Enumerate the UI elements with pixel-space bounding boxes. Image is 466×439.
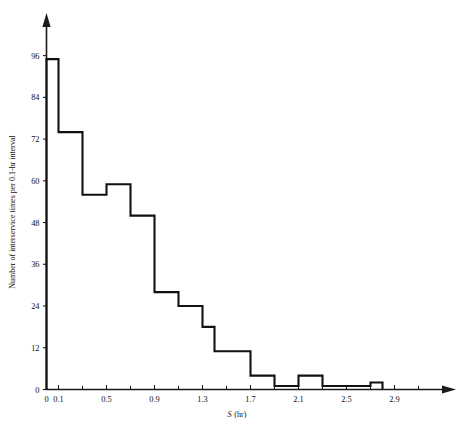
x-tick-label: 0.1 — [53, 395, 63, 404]
y-tick-label: 36 — [31, 260, 39, 269]
y-tick-label: 48 — [31, 219, 39, 228]
y-tick-label: 12 — [31, 344, 39, 353]
y-tick-label: 60 — [31, 177, 39, 186]
x-tick-label: 2.5 — [341, 395, 351, 404]
x-tick-labels: 00.10.50.91.31.72.12.52.9 — [44, 395, 399, 404]
x-tick-label: 0 — [44, 395, 48, 404]
x-axis-title: S(hr) — [228, 410, 247, 419]
x-tick-label: 1.7 — [245, 395, 255, 404]
y-tick-label: 0 — [35, 386, 39, 395]
x-tick-label: 2.9 — [389, 395, 399, 404]
chart-canvas: 01224364860728496 00.10.50.91.31.72.12.5… — [0, 0, 466, 439]
histogram-outline — [47, 59, 383, 389]
y-tick-label: 84 — [31, 93, 40, 102]
x-tick-label: 2.1 — [293, 395, 303, 404]
y-tick-labels: 01224364860728496 — [31, 52, 40, 395]
y-tick-label: 24 — [31, 302, 40, 311]
x-axis-title-units: (hr) — [234, 410, 247, 419]
y-tick-label: 72 — [31, 135, 39, 144]
x-tick-label: 0.9 — [149, 395, 159, 404]
y-axis-title: Number of interservice times per 0.1-hr … — [8, 134, 17, 288]
x-axis-title-symbol: S — [228, 410, 232, 419]
y-tick-label: 96 — [31, 52, 39, 61]
x-tick-label: 1.3 — [197, 395, 207, 404]
y-axis-arrow-icon — [42, 13, 50, 27]
x-tick-label: 0.5 — [101, 395, 111, 404]
histogram-figure: 01224364860728496 00.10.50.91.31.72.12.5… — [0, 0, 466, 439]
x-axis-arrow-icon — [442, 385, 456, 393]
